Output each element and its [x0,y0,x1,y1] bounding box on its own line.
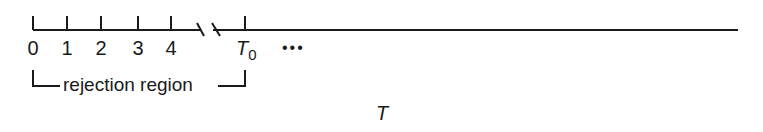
region-bracket-left [33,70,60,86]
tick-label-1: 1 [61,38,72,58]
rejection-region-label: rejection region [63,75,193,95]
tick-label-3: 3 [132,38,143,58]
region-bracket-right [218,70,245,86]
tick-label-4: 4 [165,38,176,58]
tick-label-2: 2 [95,38,106,58]
continuation-dots: ••• [282,38,305,58]
tick-label-0: 0 [27,38,38,58]
threshold-label: T0 [236,38,257,60]
threshold-subscript: 0 [248,46,256,63]
threshold-symbol: T [236,37,248,59]
axis-variable-label: T [376,103,388,123]
